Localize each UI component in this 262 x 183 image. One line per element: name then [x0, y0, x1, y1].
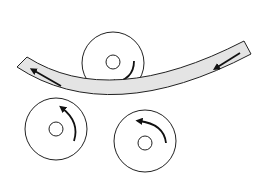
bottom-left-roll-hub	[49, 122, 63, 136]
bottom-left-roll	[25, 98, 87, 160]
diagram-canvas	[0, 0, 262, 183]
bottom-right-roll-hub	[138, 136, 152, 150]
bottom-right-roll	[114, 110, 176, 172]
three-roll-bending-diagram: Three-roll plate bending	[0, 0, 262, 183]
top-roll-hub	[106, 55, 120, 69]
